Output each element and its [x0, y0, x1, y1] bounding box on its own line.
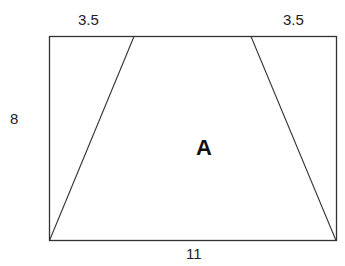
region-a-label: A — [196, 137, 212, 159]
diagram-canvas — [0, 0, 345, 266]
trapezoid-right-leg — [251, 37, 336, 241]
trapezoid-left-leg — [50, 37, 135, 241]
top-left-segment-label: 3.5 — [78, 12, 99, 27]
base-label: 11 — [186, 246, 202, 261]
height-label: 8 — [10, 111, 18, 126]
top-right-segment-label: 3.5 — [283, 12, 304, 27]
